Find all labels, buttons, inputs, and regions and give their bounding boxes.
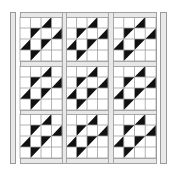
left-border-strip: [11, 13, 16, 164]
star-block: [113, 114, 156, 158]
right-border-strip: [161, 13, 167, 164]
star-block: [66, 66, 108, 110]
star-block: [113, 66, 156, 110]
horizontal-sashing: [21, 13, 157, 18]
star-block: [20, 66, 62, 110]
star-blocks: [20, 17, 156, 158]
vertical-sashing: [63, 13, 67, 164]
vertical-sashing: [109, 13, 114, 164]
horizontal-sashing: [21, 62, 157, 67]
star-block: [66, 114, 108, 158]
star-block: [20, 114, 62, 158]
star-block: [66, 17, 108, 61]
quilt-diagram: [0, 0, 172, 169]
star-block: [113, 17, 156, 61]
star-block: [20, 17, 62, 61]
horizontal-sashing: [21, 159, 157, 164]
horizontal-sashing: [21, 111, 157, 115]
